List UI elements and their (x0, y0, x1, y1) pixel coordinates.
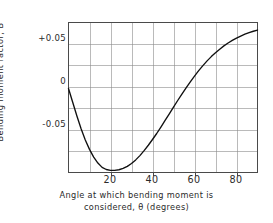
x-axis-title-line2: considered, θ (degrees) (6, 202, 267, 214)
x-tick-label: 80 (221, 174, 251, 186)
x-axis-title: Angle at which bending moment is conside… (6, 190, 267, 213)
x-tick-label: 20 (95, 174, 125, 186)
x-axis-title-line1: Angle at which bending moment is (6, 190, 267, 202)
x-tick-label: 60 (179, 174, 209, 186)
chart-figure: Bending moment factor, B +0.05 0 -0.05 2… (0, 0, 273, 223)
x-tick-label: 40 (137, 174, 167, 186)
